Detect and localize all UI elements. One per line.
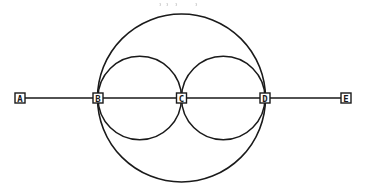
point-a: A xyxy=(15,93,25,104)
point-d: D xyxy=(260,93,270,104)
point-e-label: E xyxy=(343,94,348,104)
point-c-label: C xyxy=(179,94,184,104)
point-e: E xyxy=(341,93,351,104)
diagram-svg: A B C D E xyxy=(0,0,365,193)
faint-top-marks xyxy=(160,3,197,6)
diagram-canvas: A B C D E xyxy=(0,0,365,193)
point-d-label: D xyxy=(262,94,268,104)
point-a-label: A xyxy=(17,94,23,104)
point-b-label: B xyxy=(95,94,101,104)
point-b: B xyxy=(93,93,103,104)
point-c: C xyxy=(177,93,187,104)
